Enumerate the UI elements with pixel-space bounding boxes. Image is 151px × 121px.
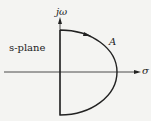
real-axis-arrow-icon	[134, 70, 141, 74]
s-plane-diagram: jω s-plane A σ	[0, 0, 151, 121]
contour-label-a: A	[109, 36, 116, 47]
contour-direction-arrow-icon	[83, 32, 91, 36]
contour-figure	[0, 0, 151, 121]
s-plane-label: s-plane	[9, 42, 45, 53]
sigma-label: σ	[142, 65, 149, 76]
imaginary-axis-arrow-icon	[58, 17, 62, 24]
jw-label: jω	[56, 6, 67, 17]
